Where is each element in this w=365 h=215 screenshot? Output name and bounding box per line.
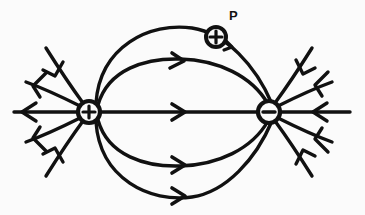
arrowhead-right-down-steep (296, 150, 315, 164)
field-arc-upper (98, 59, 268, 105)
field-arc-top-outer (96, 27, 272, 104)
field-line-diagram (0, 0, 365, 215)
arrowhead-left-up-shallow (33, 73, 46, 97)
field-arc-bottom-outer (96, 121, 272, 198)
radial-line-right-up-steep (275, 48, 312, 103)
radial-line-right-down-steep (275, 121, 312, 176)
field-arc-lower (98, 120, 268, 166)
figure-canvas: P (0, 0, 365, 215)
arrowhead-arc-bottom-outer (172, 188, 185, 204)
arrowhead-right-up-steep (296, 60, 315, 74)
arrowhead-left-down-shallow (33, 127, 46, 151)
point-label-p: P (229, 9, 238, 22)
